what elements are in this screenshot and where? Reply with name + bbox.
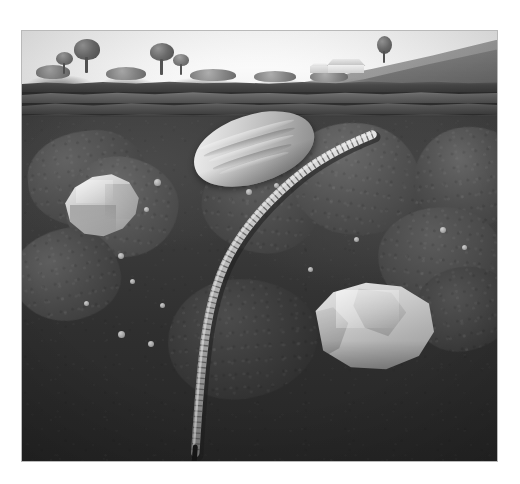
pebble-7 <box>160 303 165 308</box>
pebble-6 <box>130 279 135 284</box>
pebble-12 <box>308 267 313 272</box>
illustration-canvas <box>22 31 497 461</box>
pebble-5 <box>118 253 124 259</box>
pebble-4 <box>274 183 279 188</box>
illustration-plate <box>21 30 498 462</box>
pebble-11 <box>462 245 467 250</box>
segmented-root-svg <box>22 31 497 461</box>
pebble-8 <box>118 331 125 338</box>
pebble-3 <box>246 189 252 195</box>
pebble-2 <box>144 207 149 212</box>
pebble-1 <box>154 179 161 186</box>
page-root <box>0 0 520 484</box>
pebble-10 <box>440 227 446 233</box>
root-tip <box>194 447 195 461</box>
pebble-13 <box>84 301 89 306</box>
pebble-9 <box>148 341 154 347</box>
pebble-14 <box>354 237 359 242</box>
